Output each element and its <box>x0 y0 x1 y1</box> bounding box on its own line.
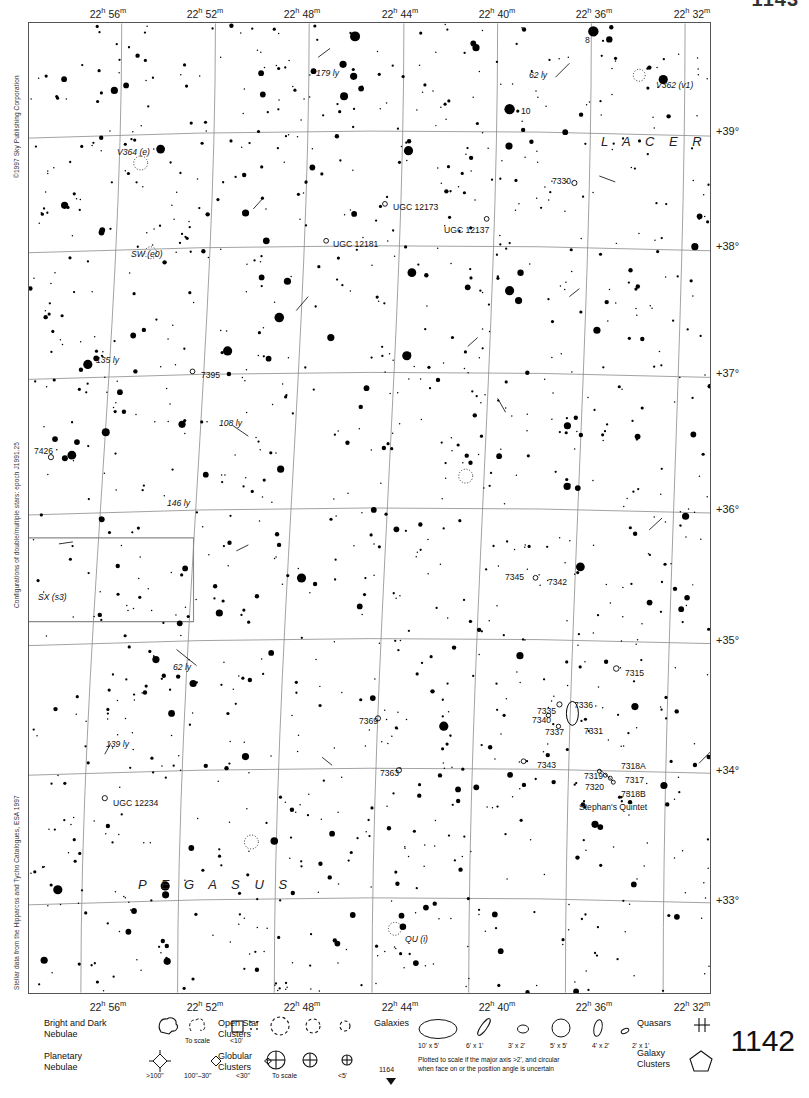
dec-tick-label: +39° <box>716 125 739 137</box>
lbl-146ly: 146 ly <box>167 499 190 508</box>
lbl-7331: 7331 <box>584 727 603 736</box>
globular-cluster-icons <box>262 1048 377 1074</box>
lbl-7345: 7345 <box>505 573 524 582</box>
ra-tick-label: 22h 56m <box>90 6 127 20</box>
legend-planetary-nebulae-label: Planetary Nebulae <box>44 1051 82 1073</box>
lbl-7342: 7342 <box>548 578 567 587</box>
legend-planetary-over100: >100" <box>146 1072 164 1079</box>
lbl-7395: 7395 <box>201 371 220 380</box>
dec-tick-label: +33° <box>716 894 739 906</box>
lbl-ugc12234: UGC 12234 <box>113 799 158 808</box>
lbl-7426: 7426 <box>34 447 53 456</box>
galaxy-size-label: 4' x 2' <box>592 1042 609 1049</box>
lbl-139ly: 139 ly <box>106 740 129 749</box>
sky-map[interactable]: 179 ly862 lyV362 (v1)10V364 (e)7330UGC 1… <box>28 22 711 994</box>
legend-globular-under5: <5' <box>338 1072 347 1079</box>
lbl-7363: 7363 <box>380 769 399 778</box>
lbl-10: 10 <box>521 107 531 116</box>
legend-planetary-100-30: 100"–30" <box>184 1072 212 1079</box>
lbl-7315: 7315 <box>625 669 644 678</box>
lbl-8: 8 <box>585 36 590 45</box>
galaxy-size-label: 6' x 1' <box>466 1042 483 1049</box>
adjacent-sheet-arrow-icon <box>386 1078 396 1085</box>
legend: Bright and Dark Nebulae To scale <10' Pl… <box>0 1004 809 1098</box>
galaxy-size-label: 5' x 5' <box>550 1042 567 1049</box>
dec-tick-label: +34° <box>716 764 739 776</box>
legend-globular-clusters-label: Globular Clusters <box>218 1051 252 1073</box>
lbl-ugc12181: UGC 12181 <box>333 240 378 249</box>
open-cluster-icons <box>268 1014 373 1038</box>
lbl-7320: 7320 <box>585 783 604 792</box>
lbl-62ly-a: 62 ly <box>529 71 547 80</box>
galaxy-cluster-icon <box>687 1048 717 1074</box>
legend-galaxies-note: Plotted to scale if the major axis >2', … <box>418 1056 559 1073</box>
page-number: 1142 <box>730 1024 795 1058</box>
lbl-sw: SW (e0) <box>131 250 163 259</box>
lbl-qu: QU (i) <box>405 935 428 944</box>
lbl-7337: 7337 <box>545 728 564 737</box>
lbl-7369: 7369 <box>359 717 378 726</box>
lbl-7343: 7343 <box>537 761 556 770</box>
lbl-7317: 7317 <box>625 776 644 785</box>
lbl-ugc12173: UGC 12173 <box>393 203 438 212</box>
copyright-credit: ©1997 Sky Publishing Corporation <box>13 75 20 178</box>
constellation-label-0: L A C E R T A <box>601 134 711 149</box>
lbl-7336: 7336 <box>574 701 593 710</box>
ra-tick-label: 22h 36m <box>576 6 613 20</box>
dec-tick-label: +38° <box>716 240 739 252</box>
lbl-108ly: 108 ly <box>219 419 242 428</box>
stellar-data-credit: Stellar data from the Hipparcos and Tych… <box>13 795 20 990</box>
lbl-v362: V362 (v1) <box>656 81 693 90</box>
lbl-179ly: 179 ly <box>316 69 339 78</box>
ra-tick-label: 22h 48m <box>284 6 321 20</box>
lbl-7319: 7319 <box>584 772 603 781</box>
legend-galaxies-label: Galaxies <box>374 1018 409 1029</box>
dec-tick-label: +36° <box>716 503 739 515</box>
ra-tick-label: 22h 40m <box>479 6 516 20</box>
galaxy-size-label: 10' x 5' <box>418 1042 439 1049</box>
adjacent-sheet-reference: 1164 <box>379 1066 394 1073</box>
lbl-7318a: 7318A <box>621 762 646 771</box>
configurations-credit: Configurations of double/multiple stars:… <box>13 442 20 608</box>
lbl-7340: 7340 <box>532 716 551 725</box>
ra-tick-label: 22h 44m <box>382 6 419 20</box>
legend-open-clusters-label: Open Star Clusters <box>218 1018 259 1040</box>
lbl-135ly: 135 ly <box>96 356 119 365</box>
legend-galaxy-clusters-label: Galaxy Clusters <box>637 1048 670 1070</box>
lbl-quintet: Stephan's Quintet <box>579 803 647 812</box>
lbl-sx: SX (s3) <box>38 593 67 602</box>
constellation-label-1: P E G A S U S <box>138 877 293 892</box>
galaxy-size-label: 3' x 2' <box>508 1042 525 1049</box>
legend-planetary-under30: <30" <box>236 1072 250 1079</box>
lbl-7318b: 7318B <box>621 790 646 799</box>
legend-bright-dark-nebulae-label: Bright and Dark Nebulae <box>44 1018 107 1040</box>
ra-tick-label: 22h 32m <box>674 6 711 20</box>
lbl-7330: 7330 <box>552 177 571 186</box>
star-chart-page: 1143 ©1997 Sky Publishing Corporation Co… <box>0 0 809 1098</box>
lbl-v364: V364 (e) <box>117 148 150 157</box>
starfield-svg <box>29 23 710 993</box>
dec-tick-label: +35° <box>716 634 739 646</box>
legend-nebulae-to-scale: To scale <box>185 1037 210 1044</box>
ra-tick-label: 22h 52m <box>187 6 224 20</box>
lbl-62ly-b: 62 ly <box>173 663 191 672</box>
page-number-top: 1143 <box>752 0 799 11</box>
legend-quasars-label: Quasars <box>637 1018 671 1029</box>
quasar-icon <box>690 1014 716 1036</box>
lbl-ugc12137: UGC 12137 <box>444 226 489 235</box>
legend-globular-to-scale: To scale <box>272 1072 297 1079</box>
galaxy-icons <box>418 1012 633 1040</box>
dec-tick-label: +37° <box>716 367 739 379</box>
